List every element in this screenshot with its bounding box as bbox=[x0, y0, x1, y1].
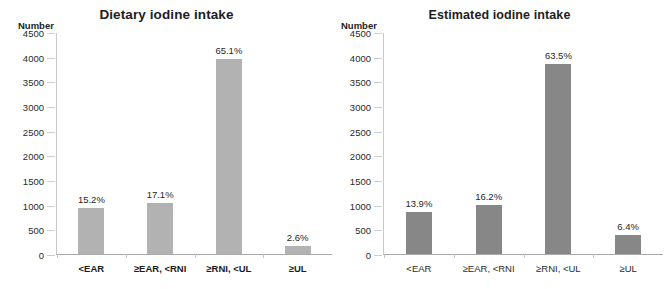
bar-value-label: 16.2% bbox=[475, 191, 502, 202]
bar[interactable]: 63.5% bbox=[545, 64, 571, 254]
bar[interactable]: 2.6% bbox=[285, 246, 311, 254]
y-axis-tick-label: 2000 bbox=[23, 151, 44, 162]
y-axis-tick-label: 2000 bbox=[350, 151, 371, 162]
y-axis-tick-label: 1500 bbox=[350, 176, 371, 187]
bar-group: 15.2%<EAR17.1%≥EAR, <RNI65.1%≥RNI, <UL2.… bbox=[57, 33, 332, 254]
bar[interactable]: 15.2% bbox=[78, 208, 104, 254]
x-axis-category-label: ≥RNI, <UL bbox=[206, 263, 251, 274]
bar[interactable]: 65.1% bbox=[216, 59, 242, 254]
y-axis-tick bbox=[47, 132, 55, 133]
y-axis-tick-label: 1000 bbox=[350, 200, 371, 211]
x-axis-category-label: ≥UL bbox=[289, 263, 307, 274]
y-axis-tick-label: 0 bbox=[366, 250, 371, 261]
bar[interactable]: 13.9% bbox=[406, 212, 432, 254]
bar-slot: 16.2%≥EAR, <RNI bbox=[454, 33, 524, 254]
y-axis-tick bbox=[47, 156, 55, 157]
x-axis-tick bbox=[195, 254, 196, 258]
y-axis-tick-label: 2500 bbox=[350, 126, 371, 137]
plot-area: 450040003500300025002000150010005000 13.… bbox=[383, 33, 663, 255]
x-axis-tick bbox=[263, 254, 264, 258]
chart-panel-dietary-iodine-intake: Dietary iodine intake Number 45004000350… bbox=[0, 0, 333, 289]
y-axis-tick bbox=[47, 58, 55, 59]
y-axis-tick bbox=[47, 107, 55, 108]
y-axis-tick-label: 4500 bbox=[350, 28, 371, 39]
x-axis-category-label: ≥UL bbox=[619, 263, 636, 274]
x-axis-tick bbox=[524, 254, 525, 258]
bar-value-label: 13.9% bbox=[405, 198, 432, 209]
y-axis-tick-label: 3000 bbox=[350, 102, 371, 113]
bar-slot: 63.5%≥RNI, <UL bbox=[524, 33, 594, 254]
bar-value-label: 2.6% bbox=[287, 232, 309, 243]
y-axis-tick bbox=[374, 206, 382, 207]
y-axis-tick bbox=[47, 255, 55, 256]
bar[interactable]: 16.2% bbox=[476, 205, 502, 254]
y-axis-tick bbox=[374, 58, 382, 59]
y-axis-tick bbox=[374, 181, 382, 182]
y-axis-tick bbox=[47, 206, 55, 207]
y-axis-tick-label: 4000 bbox=[23, 52, 44, 63]
bar[interactable]: 17.1% bbox=[147, 203, 173, 254]
y-axis-tick bbox=[374, 255, 382, 256]
x-axis-tick bbox=[593, 254, 594, 258]
x-axis-tick bbox=[384, 254, 385, 258]
plot-area: 450040003500300025002000150010005000 15.… bbox=[56, 33, 332, 255]
bar-slot: 65.1%≥RNI, <UL bbox=[195, 33, 264, 254]
y-axis-tick-label: 3500 bbox=[23, 77, 44, 88]
y-axis-tick-label: 4500 bbox=[23, 28, 44, 39]
x-axis-tick bbox=[126, 254, 127, 258]
x-axis-category-label: <EAR bbox=[79, 263, 105, 274]
y-axis-tick bbox=[374, 156, 382, 157]
x-axis-category-label: ≥RNI, <UL bbox=[536, 263, 581, 274]
y-axis-tick-label: 4000 bbox=[350, 52, 371, 63]
y-axis-tick bbox=[374, 107, 382, 108]
bar-slot: 17.1%≥EAR, <RNI bbox=[126, 33, 195, 254]
bar-value-label: 15.2% bbox=[78, 194, 105, 205]
y-axis-tick bbox=[374, 132, 382, 133]
bar-slot: 13.9%<EAR bbox=[384, 33, 454, 254]
x-axis-category-label: ≥EAR, <RNI bbox=[463, 263, 515, 274]
x-axis-category-label: <EAR bbox=[406, 263, 431, 274]
y-axis-tick-label: 500 bbox=[355, 225, 371, 236]
bar-value-label: 63.5% bbox=[545, 50, 572, 61]
y-axis-tick-label: 1000 bbox=[23, 200, 44, 211]
y-axis-tick-label: 3500 bbox=[350, 77, 371, 88]
y-axis-tick-label: 0 bbox=[39, 250, 44, 261]
bar-value-label: 65.1% bbox=[215, 45, 242, 56]
chart-panel-estimated-iodine-intake: Estimated iodine intake Number 450040003… bbox=[333, 0, 666, 289]
y-axis-tick-label: 500 bbox=[28, 225, 44, 236]
y-axis-tick bbox=[374, 230, 382, 231]
x-axis-tick bbox=[454, 254, 455, 258]
y-axis-tick-label: 1500 bbox=[23, 176, 44, 187]
bar-value-label: 17.1% bbox=[147, 189, 174, 200]
x-axis-tick bbox=[57, 254, 58, 258]
bar-value-label: 6.4% bbox=[617, 221, 639, 232]
charts-container: Dietary iodine intake Number 45004000350… bbox=[0, 0, 666, 289]
y-axis-tick bbox=[47, 181, 55, 182]
x-axis-category-label: ≥EAR, <RNI bbox=[134, 263, 186, 274]
y-axis-tick-label: 2500 bbox=[23, 126, 44, 137]
y-axis-tick bbox=[374, 33, 382, 34]
bar-slot: 6.4%≥UL bbox=[593, 33, 663, 254]
y-axis-tick-label: 3000 bbox=[23, 102, 44, 113]
y-axis-tick bbox=[47, 230, 55, 231]
chart-title: Estimated iodine intake bbox=[333, 8, 666, 22]
bar[interactable]: 6.4% bbox=[615, 235, 641, 254]
y-axis-tick bbox=[374, 82, 382, 83]
bar-slot: 15.2%<EAR bbox=[57, 33, 126, 254]
bar-group: 13.9%<EAR16.2%≥EAR, <RNI63.5%≥RNI, <UL6.… bbox=[384, 33, 663, 254]
y-axis-tick bbox=[47, 82, 55, 83]
bar-slot: 2.6%≥UL bbox=[263, 33, 332, 254]
y-axis-tick bbox=[47, 33, 55, 34]
